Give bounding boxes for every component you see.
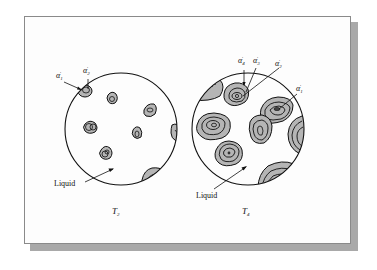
label-alpha2-prime: α2′ [83, 66, 90, 76]
leader-line [243, 68, 279, 96]
arrowhead-icon [77, 87, 82, 91]
solidification-diagram: α1′ α2′ Liquid T2 [0, 0, 377, 270]
label-alpha2-prime: α2′ [275, 59, 282, 69]
nucleus [171, 124, 180, 141]
t2-nuclei [78, 85, 180, 185]
grain [197, 113, 231, 140]
nucleus [100, 146, 113, 159]
label-alpha4-prime: α4′ [238, 56, 245, 66]
label-alpha1-prime: α1′ [296, 84, 303, 94]
grain [258, 162, 297, 188]
liquid-label-t4: Liquid [196, 191, 217, 200]
leader-line [246, 68, 256, 92]
t4-grains [192, 80, 310, 188]
panel-t4: α4′ α3′ α2′ α1′ Liquid T4 [192, 56, 310, 218]
label-alpha1-prime: α1′ [56, 71, 63, 81]
liquid-label-t2: Liquid [54, 179, 75, 188]
arrowhead-icon [109, 169, 115, 173]
grain [215, 141, 242, 166]
panel-t2: α1′ α2′ Liquid T2 [54, 66, 180, 218]
nucleus [132, 127, 142, 139]
grain [288, 116, 310, 154]
temperature-label-t2: T2 [112, 206, 120, 217]
temperature-label-t4: T4 [242, 206, 250, 217]
grain [249, 115, 272, 143]
label-alpha3-prime: α3′ [253, 56, 260, 66]
nucleus [84, 121, 98, 133]
liquid-leader [214, 167, 246, 189]
nucleus [144, 104, 157, 117]
nucleus [107, 92, 117, 103]
nucleus [142, 168, 164, 185]
